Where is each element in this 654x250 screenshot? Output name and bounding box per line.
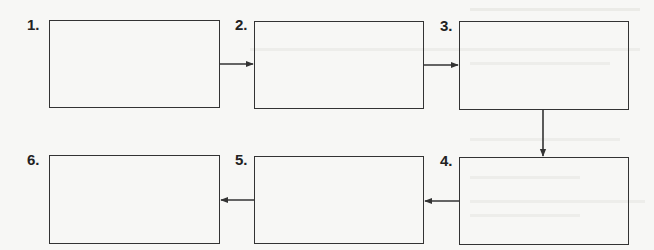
connector-arrows xyxy=(0,0,654,250)
